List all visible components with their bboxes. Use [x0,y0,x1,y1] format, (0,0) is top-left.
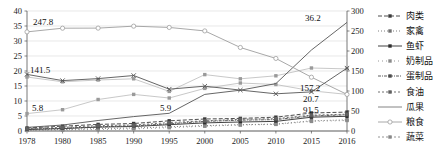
right-axis-tick-label: 0 [351,127,377,136]
data-point-marker [239,77,242,80]
legend-label: 蔬菜 [406,132,424,142]
data-point-marker [132,24,136,28]
data-point-marker [239,123,242,126]
dual-axis-line-chart: 0510152025303540 050100150200250300 1978… [0,0,435,159]
x-axis-tick-label: 2015 [294,137,328,146]
series-line [27,22,347,127]
data-point-marker [168,96,171,99]
legend-item-7[interactable]: 瓜果 [376,99,434,114]
legend-item-3[interactable]: 鱼虾 [376,38,434,53]
data-point-marker [61,126,64,129]
legend-label: 蛋制品 [406,71,433,81]
data-point-marker [274,56,278,60]
data-point-marker [96,26,100,30]
data-point-marker [274,74,277,77]
data-label: 5.9 [160,104,171,113]
left-axis-tick-label: 40 [0,7,22,16]
left-axis-tick-label: 0 [0,127,22,136]
data-point-marker [96,124,99,127]
legend-label: 家禽 [406,26,424,36]
data-point-marker [25,30,29,34]
left-axis-tick-label: 30 [0,37,22,46]
legend-item-5[interactable]: 蛋制品 [376,69,434,84]
right-axis-tick-label: 250 [351,27,377,36]
legend-key-icon [376,55,404,67]
legend-label: 瓜果 [406,102,424,112]
data-point-marker [61,108,64,111]
chart-legend: 肉类家禽鱼虾奶制品蛋制品食油瓜果粮食蔬菜 [376,8,434,145]
x-axis-tick-label: 2000 [188,137,222,146]
x-axis-tick-label: 2005 [223,137,257,146]
data-point-marker [203,29,207,33]
data-point-marker [203,119,206,122]
legend-key-icon [376,25,404,37]
data-point-marker [60,26,64,30]
data-point-marker [239,81,242,84]
data-label: 141.5 [30,66,50,75]
data-point-marker [132,93,135,96]
data-label: 157.2 [300,84,320,93]
legend-item-1[interactable]: 肉类 [376,8,434,23]
legend-label: 鱼虾 [406,41,424,51]
x-axis-tick-label: 1978 [10,137,44,146]
series-line [27,112,347,128]
legend-key-icon [376,131,404,143]
legend-key-icon [376,86,404,98]
legend-item-8[interactable]: 粮食 [376,114,434,129]
left-axis-tick-label: 35 [0,22,22,31]
legend-key-icon [376,101,404,113]
data-point-marker [345,119,348,122]
data-point-marker [167,25,171,29]
data-point-marker [310,66,313,69]
legend-item-9[interactable]: 蔬菜 [376,130,434,145]
legend-item-4[interactable]: 奶制品 [376,54,434,69]
data-point-marker [274,123,277,126]
left-axis-tick-label: 10 [0,97,22,106]
legend-label: 粮食 [406,117,424,127]
right-axis-tick-label: 100 [351,87,377,96]
legend-item-2[interactable]: 家禽 [376,23,434,38]
data-point-marker [345,113,348,116]
data-point-marker [25,112,28,115]
right-axis-tick-label: 200 [351,47,377,56]
data-point-marker [132,77,135,80]
data-point-marker [203,73,206,76]
legend-key-icon [376,116,404,128]
x-axis-tick-label: 1985 [81,137,115,146]
data-label: 91.5 [303,106,319,115]
legend-label: 食油 [406,87,424,97]
x-axis-tick-label: 2010 [259,137,293,146]
x-axis-tick-label: 1990 [117,137,151,146]
data-point-marker [274,117,277,120]
data-point-marker [345,92,349,96]
data-point-marker [310,120,313,123]
data-label: 36.2 [305,14,321,23]
series-line [27,26,347,94]
data-point-marker [203,125,206,128]
data-point-marker [309,75,313,79]
left-axis-tick-label: 5 [0,112,22,121]
legend-key-icon [376,70,404,82]
left-axis-tick-label: 15 [0,82,22,91]
data-point-marker [168,121,171,124]
x-axis-tick-label: 2016 [330,137,364,146]
legend-key-icon [376,10,404,22]
data-point-marker [238,45,242,49]
right-axis-tick-label: 300 [351,7,377,16]
legend-key-icon [376,40,404,52]
x-axis-tick-label: 1995 [152,137,186,146]
data-label: 20.7 [303,95,319,104]
legend-item-6[interactable]: 食油 [376,84,434,99]
data-point-marker [132,127,135,130]
data-point-marker [168,126,171,129]
data-label: 247.8 [33,18,53,27]
data-point-marker [239,118,242,121]
data-point-marker [132,123,135,126]
data-label: 5.8 [32,104,43,113]
right-axis-tick-label: 50 [351,107,377,116]
legend-label: 奶制品 [406,56,433,66]
left-axis-tick-label: 25 [0,52,22,61]
right-axis-tick-label: 150 [351,67,377,76]
x-axis-tick-label: 1980 [46,137,80,146]
series-line [27,114,347,128]
